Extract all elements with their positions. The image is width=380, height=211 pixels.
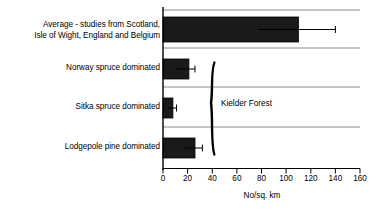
x-tick-label-40: 40 bbox=[208, 174, 217, 183]
x-tick-label-160: 160 bbox=[353, 174, 367, 183]
annotation-kielder-forest: Kielder Forest bbox=[221, 99, 272, 108]
error-bars bbox=[168, 26, 335, 152]
x-axis-title: No/sq. km bbox=[244, 191, 281, 200]
kielder-forest-brace bbox=[211, 62, 215, 155]
bar-chart: Average - studies from Scotland, Isle of… bbox=[0, 0, 380, 211]
x-tick-label-100: 100 bbox=[279, 174, 293, 183]
x-tick-label-0: 0 bbox=[161, 174, 166, 183]
x-tick-label-140: 140 bbox=[329, 174, 343, 183]
x-tick-label-80: 80 bbox=[257, 174, 266, 183]
x-axis-ticks bbox=[163, 169, 360, 174]
x-tick-label-60: 60 bbox=[232, 174, 241, 183]
x-tick-label-120: 120 bbox=[304, 174, 318, 183]
x-tick-label-20: 20 bbox=[183, 174, 192, 183]
